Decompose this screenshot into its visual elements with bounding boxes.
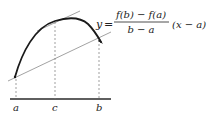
- label-a: a: [13, 102, 19, 113]
- label-c: c: [52, 102, 58, 113]
- point-a-marker: [14, 76, 16, 78]
- label-b: b: [96, 102, 102, 113]
- equation-equals: =: [104, 18, 113, 31]
- equation-factor: (x − a): [172, 19, 206, 30]
- secant-equation: y = f(b) − f(a) b − a (x − a): [95, 9, 206, 35]
- equation-numerator: f(b) − f(a): [115, 9, 166, 20]
- function-curve: [15, 18, 101, 77]
- secant-line: [8, 32, 111, 81]
- equation-denominator: b − a: [127, 24, 154, 35]
- equation-lhs: y: [95, 18, 103, 31]
- mvt-diagram: a c b y = f(b) − f(a) b − a (x − a): [0, 0, 211, 118]
